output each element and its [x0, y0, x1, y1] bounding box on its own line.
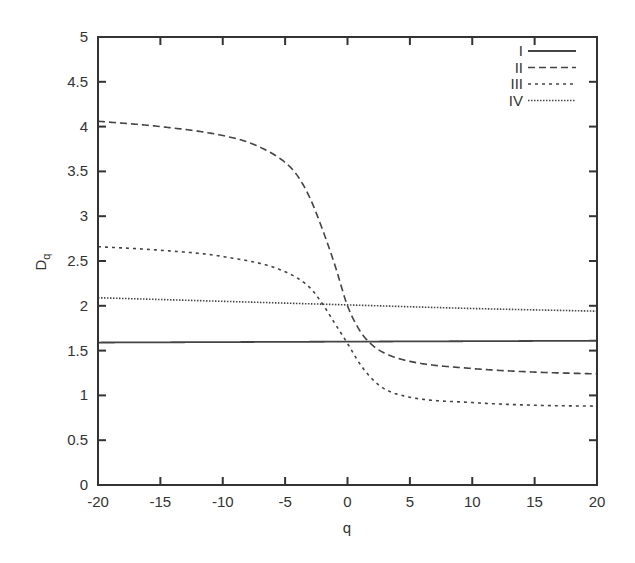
curve-IV	[98, 298, 597, 311]
plot-curves	[98, 121, 597, 406]
y-tick-label: 2.5	[67, 252, 88, 269]
y-tick-label: 3	[80, 207, 88, 224]
chart: -20-15-10-505101520 00.511.522.533.544.5…	[0, 0, 635, 563]
x-tick-label: 10	[464, 493, 481, 510]
y-axis-label: Dq	[32, 254, 52, 271]
x-axis-label: q	[343, 519, 351, 536]
legend-label-II: II	[515, 59, 523, 76]
y-tick-label: 5	[80, 28, 88, 45]
svg-text:Dq: Dq	[32, 254, 52, 271]
curve-II	[98, 121, 597, 374]
legend: IIIIIIIV	[509, 42, 576, 109]
legend-label-I: I	[519, 42, 523, 59]
y-tick-label: 1.5	[67, 342, 88, 359]
y-tick-label: 4.5	[67, 73, 88, 90]
x-tick-label: -5	[278, 493, 291, 510]
y-tick-label: 2	[80, 297, 88, 314]
x-tick-label: -20	[87, 493, 109, 510]
y-tick-label: 3.5	[67, 162, 88, 179]
y-tick-label: 1	[80, 386, 88, 403]
x-tick-label: 0	[343, 493, 351, 510]
y-axis-label-main: D	[32, 259, 49, 270]
curve-III	[98, 247, 597, 406]
x-tick-label: 15	[526, 493, 543, 510]
y-tick-label: 0.5	[67, 431, 88, 448]
legend-label-IV: IV	[509, 92, 523, 109]
x-tick-labels: -20-15-10-505101520	[87, 493, 605, 510]
y-tick-labels: 00.511.522.533.544.55	[67, 28, 88, 493]
x-tick-label: 20	[589, 493, 606, 510]
y-axis-label-subscript: q	[40, 254, 52, 260]
legend-label-III: III	[510, 75, 523, 92]
y-tick-label: 0	[80, 476, 88, 493]
x-tick-label: 5	[406, 493, 414, 510]
x-tick-label: -15	[150, 493, 172, 510]
y-tick-label: 4	[80, 118, 88, 135]
x-tick-label: -10	[212, 493, 234, 510]
curve-I	[98, 341, 597, 343]
